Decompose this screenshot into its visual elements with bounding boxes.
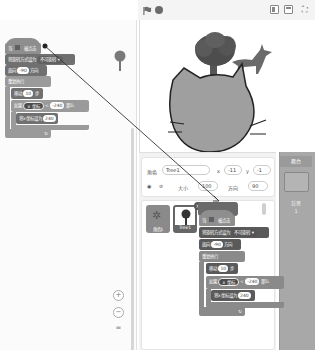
current-sprite-thumbnail-icon — [113, 50, 127, 72]
when-flag-clicked-label[interactable]: 当 被点击 — [5, 43, 41, 54]
point-in-direction-block[interactable]: 面向 -90 方向 — [5, 65, 47, 76]
cat-sprite[interactable] — [168, 64, 266, 152]
sprite-label: 角色 — [147, 168, 157, 175]
forever-block-bottom: ↻ — [5, 129, 51, 138]
backdrops-count: 1 — [280, 208, 312, 214]
stage-canvas[interactable] — [139, 20, 315, 152]
code-area-scrollbar[interactable] — [131, 128, 134, 350]
compare-value-input[interactable]: -240 — [245, 278, 259, 285]
tree1-thumbnail-icon — [180, 209, 192, 225]
steps-input[interactable]: 10 — [23, 90, 33, 97]
direction-input[interactable]: 90 — [248, 181, 268, 191]
sprite1-thumbnail-icon: ✲ — [152, 209, 161, 222]
dragged-forever-arm — [199, 262, 204, 308]
stage-thumbnail[interactable] — [284, 172, 309, 192]
x-label: x — [217, 168, 220, 174]
normal-stage-button[interactable] — [284, 5, 293, 14]
small-stage-button[interactable] — [270, 5, 279, 14]
set-x-input[interactable]: 240 — [43, 115, 56, 122]
zoom-reset-button[interactable]: = — [113, 324, 124, 335]
sprite-list-scrollbar[interactable] — [262, 203, 266, 215]
direction-label: 方向 — [228, 184, 238, 191]
compare-value-input[interactable]: -240 — [50, 102, 64, 109]
if-then-block[interactable]: 如果 x 坐标 < -240 那么 — [11, 100, 89, 112]
rotation-style-dropdown[interactable]: 不可旋转 ▾ — [231, 229, 257, 237]
sprite-tile-sprite1[interactable]: ✲ 角色1 — [146, 205, 170, 233]
stop-icon[interactable] — [155, 6, 163, 14]
direction-input[interactable]: -90 — [17, 67, 28, 74]
dragged-move-steps-block[interactable]: 移动 10 步 — [206, 263, 238, 274]
show-hidden-icon[interactable]: ⊘ — [159, 183, 163, 189]
zoom-in-button[interactable]: + — [113, 290, 124, 301]
sprite-name-input[interactable]: Tree1 — [162, 165, 210, 175]
flag-icon — [209, 217, 214, 222]
set-rotation-style-block[interactable]: 将旋转方式设为 不可旋转 ▾ — [5, 54, 75, 65]
dragged-when-flag-label[interactable]: 当 被点击 — [199, 215, 235, 226]
backdrops-label: 背景 — [280, 199, 312, 206]
x-position-reporter[interactable]: x 坐标 — [218, 278, 238, 286]
sprite-info: 角色 Tree1 x -11 y -1 ◉ ⊘ 大小 100 方向 90 — [141, 157, 275, 197]
repeat-arrow-icon: ↻ — [44, 131, 48, 136]
set-x-input[interactable]: 240 — [238, 292, 251, 299]
dragged-if-then-block[interactable]: 如果 x 坐标 < -240 那么 — [206, 276, 284, 289]
dragged-set-x-block[interactable]: 将x坐标设为 240 — [211, 290, 255, 301]
forever-block[interactable]: 重复执行 — [5, 76, 51, 87]
sprite-tile-tree1[interactable]: Tree1 — [173, 205, 197, 233]
size-input[interactable]: 100 — [198, 181, 218, 191]
green-flag-icon[interactable] — [143, 6, 152, 15]
dragged-forever-bottom: ↻ — [199, 307, 245, 316]
set-x-block[interactable]: 将x坐标设为 240 — [16, 113, 58, 124]
zoom-out-button[interactable]: − — [113, 307, 124, 318]
stage-title: 舞台 — [280, 156, 312, 167]
show-visible-icon[interactable]: ◉ — [147, 183, 151, 189]
scratch-editor: ⛶ + − = 当 被点击 将旋转方式设为 不可旋转 ▾ 面向 -90 方向 重… — [0, 0, 315, 350]
repeat-arrow-icon: ↻ — [238, 309, 242, 314]
x-position-input[interactable]: -11 — [224, 165, 242, 175]
stage-selector[interactable]: 舞台 背景 1 — [279, 152, 315, 350]
direction-input[interactable]: -90 — [211, 241, 222, 248]
dragged-set-rotation-style-block[interactable]: 将旋转方式设为 不可旋转 ▾ — [199, 227, 269, 238]
stage-scene — [140, 20, 315, 152]
forever-block-arm — [5, 87, 10, 130]
rotation-style-dropdown[interactable]: 不可旋转 ▾ — [37, 56, 63, 64]
steps-input[interactable]: 10 — [218, 265, 228, 272]
fullscreen-icon[interactable]: ⛶ — [300, 5, 309, 14]
y-position-input[interactable]: -1 — [253, 165, 271, 175]
y-label: y — [246, 168, 249, 174]
move-steps-block[interactable]: 移动 10 步 — [11, 88, 43, 99]
dragged-forever-block[interactable]: 重复执行 — [199, 251, 245, 262]
size-label: 大小 — [178, 184, 188, 191]
dragged-point-in-direction-block[interactable]: 面向 -90 方向 — [199, 239, 241, 250]
sprite-tile-label: Tree1 — [175, 225, 195, 231]
x-position-reporter[interactable]: x 坐标 — [23, 102, 43, 110]
flag-icon — [15, 45, 20, 50]
sprite-tile-label: 角色1 — [146, 226, 170, 232]
